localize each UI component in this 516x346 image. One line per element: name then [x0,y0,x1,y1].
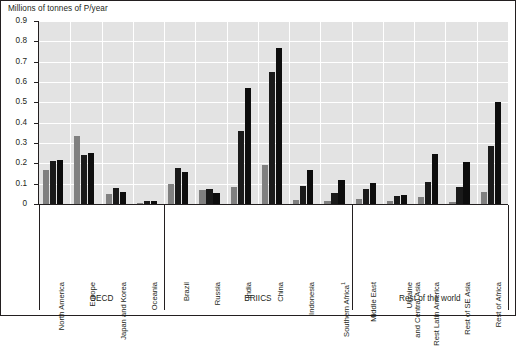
y-axis-tick [34,41,39,42]
bar [425,182,431,204]
bar [456,187,462,204]
bar [363,189,369,204]
y-axis-tick-labels: 00.10.20.30.40.50.60.70.80.9 [1,1,32,317]
group-separator [508,205,509,310]
bar [338,180,344,204]
y-axis-tick-label: 0.2 [16,159,27,167]
bar-cluster [352,21,383,204]
y-axis-tick [34,123,39,124]
y-axis-tick-label: 0.3 [16,139,27,147]
y-axis-tick [34,163,39,164]
bar [262,165,268,204]
bar [113,188,119,204]
bar-cluster [414,21,445,204]
y-axis-tick-label: 0.4 [16,119,27,127]
bar [269,72,275,204]
group-separator [352,205,353,310]
y-axis-tick [34,21,39,22]
bar [106,194,112,204]
group-label: Rest of the world [352,294,508,303]
bar [151,201,157,204]
y-axis-tick-label: 0.7 [16,58,27,66]
bar [238,131,244,204]
bar [481,192,487,204]
bar [307,170,313,204]
bar [199,190,205,204]
bar [137,203,143,204]
bar-cluster [227,21,258,204]
bar [88,153,94,204]
x-axis-line [38,204,508,205]
y-axis-tick-label: 0.6 [16,78,27,86]
bar-cluster [70,21,101,204]
bar [387,201,393,204]
y-axis-tick-label: 0.5 [16,98,27,106]
bar [57,160,63,204]
bar [168,184,174,204]
bar-cluster [164,21,195,204]
bar [43,170,49,204]
bar [300,186,306,204]
y-axis-tick-label: 0 [22,200,27,208]
bar-cluster [477,21,508,204]
y-axis-tick [34,102,39,103]
bar [245,88,251,204]
bar-cluster [258,21,289,204]
y-axis-tick-label: 0.1 [16,180,27,188]
bar [182,172,188,204]
y-axis-tick [34,143,39,144]
bar [120,192,126,204]
group-labels: OECDBRIICSRest of the world [1,294,516,310]
bar [495,102,501,204]
bar-cluster [320,21,351,204]
bar [293,200,299,204]
bar [449,202,455,204]
bar [370,183,376,204]
bar [401,195,407,204]
bar [394,196,400,204]
bar [488,146,494,204]
y-axis-tick [34,82,39,83]
bar [432,154,438,204]
bar-cluster [445,21,476,204]
bar [213,193,219,204]
bar [331,193,337,204]
x-axis-category-label: Rest Latin America [433,282,441,346]
bar [50,161,56,204]
bar [206,189,212,204]
y-axis-tick [34,62,39,63]
footnote-marker: 1 [340,282,346,285]
y-axis-tick [34,184,39,185]
bar-cluster [383,21,414,204]
bar [81,155,87,204]
bar [74,136,80,204]
bar-cluster [133,21,164,204]
bar [144,201,150,204]
group-separator [164,205,165,310]
x-axis-category-label: Japan and Korea [120,282,128,340]
bar [324,201,330,204]
bar-cluster [289,21,320,204]
bar-series-container [39,21,508,204]
bar [276,48,282,204]
bar [231,187,237,204]
y-axis-tick-label: 0.8 [16,37,27,45]
bar [463,162,469,204]
bar-cluster [195,21,226,204]
group-label: OECD [39,294,164,303]
bar [356,199,362,204]
bar-cluster [39,21,70,204]
group-label: BRIICS [164,294,352,303]
group-separator [39,205,40,310]
bar [175,168,181,204]
x-axis-category-labels: North AmericaEuropeJapan and KoreaOceani… [39,206,508,284]
bar [418,197,424,204]
y-axis-tick-label: 0.9 [16,17,27,25]
bar-cluster [102,21,133,204]
